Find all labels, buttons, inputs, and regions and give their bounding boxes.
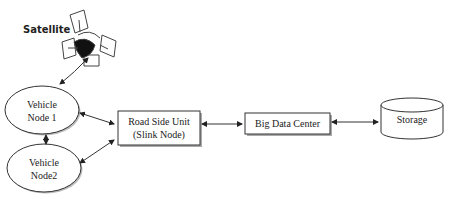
- storage-label: Storage: [381, 113, 443, 126]
- link-vehicle2-rsu: [80, 140, 114, 163]
- satellite-label: Satellite: [23, 24, 70, 35]
- satellite-icon: [62, 10, 116, 66]
- vehicle-node-1-line2: Node 1: [5, 111, 79, 124]
- rsu-line2: (Slink Node): [118, 128, 200, 141]
- link-satellite-vehicle1: [60, 58, 88, 84]
- rsu-label: Road Side Unit (Slink Node): [118, 115, 200, 141]
- vehicle-node-2-line1: Vehicle: [7, 156, 81, 169]
- vehicle-node-1-label: Vehicle Node 1: [5, 98, 79, 124]
- vehicle-node-2-label: Vehicle Node2: [7, 156, 81, 182]
- rsu-line1: Road Side Unit: [118, 115, 200, 128]
- link-vehicle1-rsu: [80, 113, 114, 124]
- vehicle-node-1-line1: Vehicle: [5, 98, 79, 111]
- bigdata-label: Big Data Center: [245, 117, 330, 130]
- vehicle-node-2-line2: Node2: [7, 169, 81, 182]
